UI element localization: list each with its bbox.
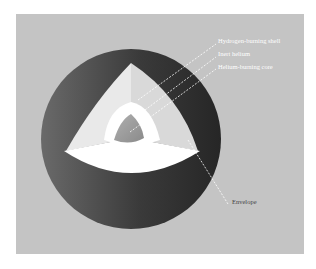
label-helium-burning-core: Helium-burning core (218, 63, 273, 70)
label-hydrogen-burning-shell: Hydrogen-burning shell (218, 37, 280, 44)
label-inert-helium: Inert helium (218, 50, 250, 57)
label-envelope: Envelope (232, 198, 257, 205)
